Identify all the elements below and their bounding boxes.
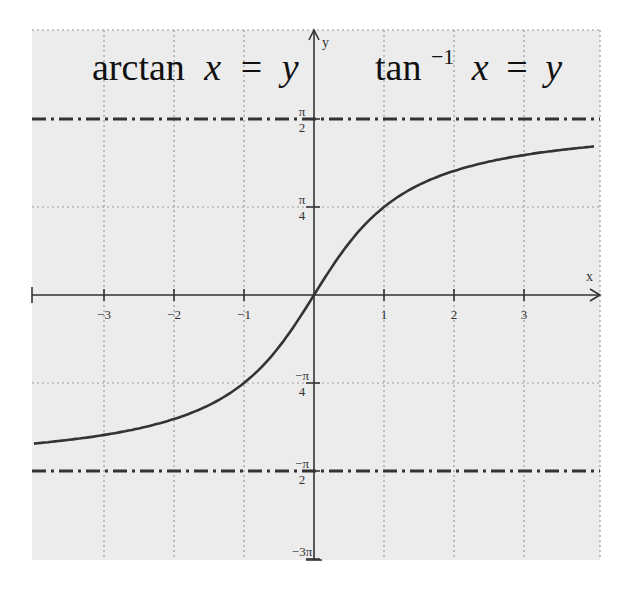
title-tan-var: x <box>471 46 489 88</box>
y-tick-denominator: 4 <box>299 384 306 399</box>
y-tick-denominator: 4 <box>299 208 306 223</box>
x-tick-label: 3 <box>521 307 528 322</box>
title-arctan-var: x <box>203 46 221 88</box>
title-arctan-res: y <box>278 46 299 88</box>
title-tan-res: y <box>541 46 562 88</box>
y-tick-denominator: 2 <box>299 472 306 487</box>
x-tick-label: −2 <box>167 307 181 322</box>
y-tick-numerator: −π <box>295 456 309 471</box>
y-tick-numerator: −π <box>295 368 309 383</box>
arctan-chart: x y −3−2−1123 π2π4−π4−π2−3π arctan x = y… <box>0 0 630 590</box>
title-tan-eq: = <box>506 46 527 88</box>
y-tick-numerator: π <box>299 192 306 207</box>
x-axis-label: x <box>586 269 593 284</box>
title-tan-sup: −1 <box>431 44 454 69</box>
y-axis-label: y <box>322 35 329 50</box>
y-tick-numerator: π <box>299 104 306 119</box>
y-tick-denominator: 2 <box>299 120 306 135</box>
x-tick-label: −1 <box>237 307 251 322</box>
x-tick-label: 2 <box>451 307 458 322</box>
title-arctan-eq: = <box>241 46 262 88</box>
title-arctan-fn: arctan <box>92 46 185 88</box>
y-tick-numerator: −3π <box>292 544 313 559</box>
x-tick-label: 1 <box>381 307 388 322</box>
title-tan-fn: tan <box>375 46 421 88</box>
x-tick-label: −3 <box>97 307 111 322</box>
